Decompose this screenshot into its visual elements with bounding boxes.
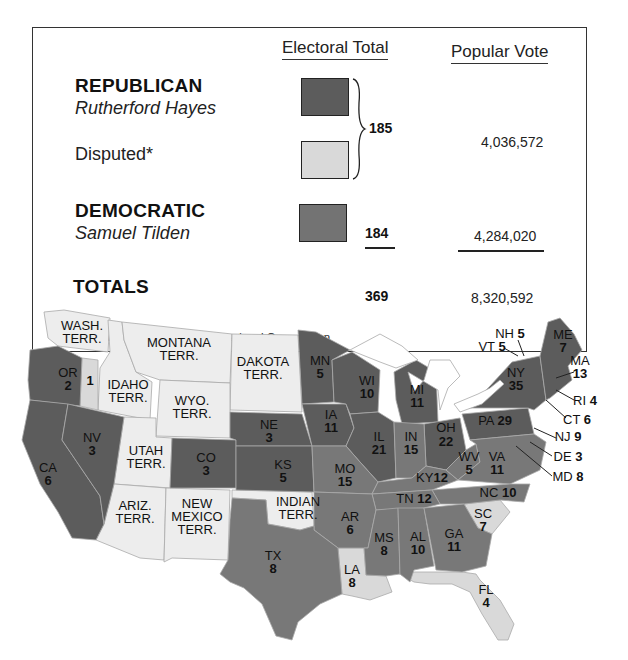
svg-text:35: 35 [509,378,523,393]
brace-icon [351,78,371,180]
totals-label: TOTALS [73,276,149,298]
svg-text:TERR.: TERR. [127,456,166,471]
electoral-total-header: Electoral Total [282,38,388,60]
svg-text:13: 13 [573,366,587,381]
hayes-electoral-total: 185 [369,120,392,136]
region-fl [396,572,514,640]
svg-text:5: 5 [316,366,323,381]
svg-text:1: 1 [86,373,93,388]
democratic-party-label: DEMOCRATIC [75,200,205,222]
svg-text:7: 7 [479,519,486,534]
svg-text:22: 22 [439,434,453,449]
svg-text:OH: OH [436,420,456,435]
svg-text:10: 10 [411,542,425,557]
popular-sum-rule [458,250,544,252]
svg-text:15: 15 [404,442,418,457]
svg-text:MD 8: MD 8 [552,469,583,484]
hayes-popular-vote: 4,036,572 [481,134,543,150]
tilden-popular-vote: 4,284,020 [474,228,536,244]
svg-text:TERR.: TERR. [173,406,212,421]
svg-text:3: 3 [265,430,272,445]
disputed-label: Disputed* [75,144,153,165]
svg-text:11: 11 [410,395,424,410]
svg-text:RI 4: RI 4 [573,393,598,408]
svg-text:21: 21 [372,442,386,457]
svg-text:NJ 9: NJ 9 [555,429,582,444]
svg-text:TERR.: TERR. [160,348,199,363]
hayes-candidate-label: Rutherford Hayes [75,98,216,119]
svg-text:4: 4 [482,595,490,610]
svg-text:TN 12: TN 12 [396,491,431,506]
tilden-candidate-label: Samuel Tilden [75,223,190,244]
svg-text:3: 3 [88,443,95,458]
svg-text:8: 8 [348,575,355,590]
electoral-sum-rule [365,247,395,249]
svg-text:11: 11 [447,539,461,554]
svg-text:6: 6 [346,522,353,537]
popular-vote-header: Popular Vote [451,42,548,64]
svg-text:TERR.: TERR. [109,390,148,405]
svg-text:TERR.: TERR. [178,522,217,537]
svg-text:5: 5 [279,470,286,485]
republican-swatch [301,78,349,116]
svg-text:TERR.: TERR. [63,331,102,346]
republican-party-label: REPUBLICAN [75,75,203,97]
democratic-swatch [299,204,347,242]
svg-text:11: 11 [490,462,504,477]
tilden-electoral-total: 184 [365,225,388,241]
svg-text:NC 10: NC 10 [480,485,517,500]
svg-text:TERR.: TERR. [279,507,318,522]
disputed-swatch [301,141,349,179]
svg-text:5: 5 [465,462,472,477]
svg-text:11: 11 [324,420,338,435]
svg-text:10: 10 [360,386,374,401]
svg-text:TERR.: TERR. [244,367,283,382]
svg-text:DE 3: DE 3 [554,449,583,464]
svg-text:2: 2 [64,378,71,393]
electoral-map: WASH.TERR. MONTANATERR. DAKOTATERR. OR2 … [0,300,628,660]
svg-text:CT 6: CT 6 [563,412,591,427]
svg-text:VT 5: VT 5 [478,339,505,354]
svg-text:6: 6 [44,473,51,488]
svg-text:8: 8 [269,561,276,576]
svg-text:7: 7 [559,340,566,355]
svg-text:KY12: KY12 [416,470,448,485]
svg-text:3: 3 [202,463,209,478]
svg-text:PA 29: PA 29 [478,413,512,428]
svg-text:TERR.: TERR. [116,511,155,526]
svg-text:8: 8 [380,543,387,558]
svg-text:15: 15 [338,474,352,489]
